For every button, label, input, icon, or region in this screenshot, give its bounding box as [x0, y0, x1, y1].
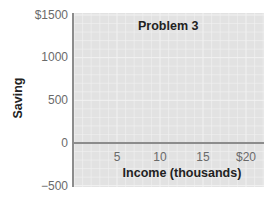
chart-title: Problem 3 — [138, 19, 198, 33]
x-tick-label: 5 — [114, 150, 121, 164]
y-tick-label: 0 — [61, 136, 68, 150]
y-tick-label: 1000 — [41, 50, 68, 64]
chart: Problem 3 $1500 1000 500 0 −500 5 10 15 … — [0, 0, 275, 202]
y-tick-label: 500 — [48, 93, 68, 107]
y-axis-title: Saving — [11, 78, 25, 119]
y-tick-label: $1500 — [35, 8, 69, 22]
x-tick-label: 15 — [196, 150, 210, 164]
x-tick-label: 10 — [153, 150, 167, 164]
y-tick-label: −500 — [41, 179, 68, 193]
x-tick-label: $20 — [236, 150, 256, 164]
x-axis-title: Income (thousands) — [123, 166, 242, 180]
